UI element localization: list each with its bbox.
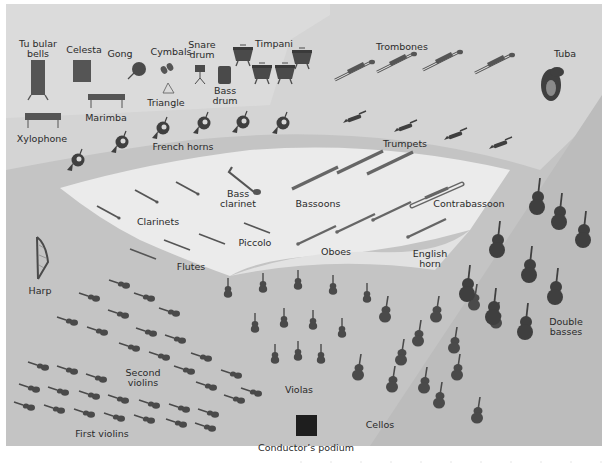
french-horns-label: French horns (152, 141, 213, 152)
harp-label: Harp (29, 285, 52, 296)
timpani-label: Timpani (254, 38, 293, 49)
trombones-label: Trombones (375, 41, 428, 52)
bassoons-label: Bassoons (296, 198, 341, 209)
orchestra-seating-diagram: Tu bularbells Celesta Gong Cymbals Trian… (0, 0, 607, 470)
piccolo-label: Piccolo (239, 237, 272, 248)
conductors-podium (296, 415, 317, 436)
flutes-label: Flutes (177, 261, 206, 272)
snare-drum-label: Snaredrum (188, 39, 216, 60)
trumpets-label: Trumpets (382, 138, 427, 149)
celesta-icon (73, 60, 91, 82)
cellos-label: Cellos (366, 419, 395, 430)
bass-drum-icon (218, 66, 231, 84)
violas-label: Violas (285, 384, 313, 395)
xylophone-label: Xylophone (17, 133, 67, 144)
first-violins-label: First violins (75, 428, 128, 439)
gong-label: Gong (107, 48, 132, 59)
oboes-label: Oboes (321, 246, 351, 257)
tuba-label: Tuba (553, 48, 576, 59)
celesta-label: Celesta (66, 44, 101, 55)
triangle-label: Triangle (146, 97, 184, 108)
marimba-label: Marimba (85, 112, 127, 123)
contrabassoon-label: Contrabassoon (433, 198, 504, 209)
conductors-podium-label: Conductor’s podium (258, 442, 354, 453)
cymbals-label: Cymbals (151, 46, 192, 57)
second-violins-label: Secondviolins (126, 367, 161, 388)
bass-drum-label: Bassdrum (212, 85, 237, 106)
tubular-bells-icon (28, 60, 48, 100)
clarinets-label: Clarinets (137, 216, 179, 227)
double-basses-label: Doublebasses (549, 316, 583, 337)
